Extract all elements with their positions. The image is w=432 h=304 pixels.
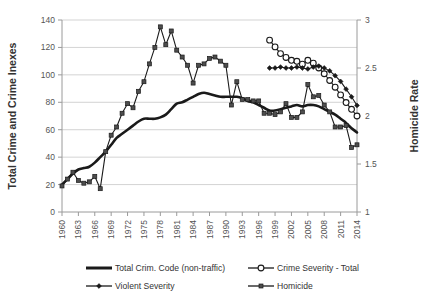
data-point-marker (104, 150, 108, 154)
data-point-marker (115, 125, 119, 129)
x-axis-tick-label: 1999 (270, 220, 280, 239)
data-point-marker (147, 62, 151, 66)
data-point-marker (169, 29, 173, 33)
data-point-marker (258, 265, 264, 271)
data-point-marker (284, 66, 289, 71)
data-point-marker (191, 81, 195, 85)
x-axis-tick-label: 1984 (188, 220, 198, 239)
data-point-marker (186, 63, 190, 67)
data-point-marker (82, 181, 86, 185)
y2-axis-tick-label: 2 (365, 111, 370, 121)
series-0 (62, 93, 357, 185)
legend-item-1[interactable]: Crime Severity - Total (248, 263, 359, 273)
x-axis-tick-label: 1963 (73, 220, 83, 239)
data-point-marker (60, 184, 64, 188)
data-point-marker (338, 92, 344, 98)
data-point-marker (289, 115, 293, 119)
chart-canvas: 02040608010012014011.522.531960196319661… (0, 0, 432, 304)
data-point-marker (142, 80, 146, 84)
x-axis-tick-label: 2014 (352, 220, 362, 239)
legend-item-3[interactable]: Homicide (248, 281, 313, 291)
x-axis-tick-label: 2008 (319, 220, 329, 239)
data-point-marker (197, 63, 201, 67)
data-point-marker (278, 65, 283, 70)
data-point-marker (240, 98, 244, 102)
data-point-marker (349, 106, 355, 112)
data-point-marker (339, 125, 343, 129)
data-point-marker (354, 113, 360, 119)
y-axis-tick-label: 20 (46, 180, 56, 190)
data-point-marker (317, 93, 321, 97)
data-point-marker (300, 110, 304, 114)
data-point-marker (262, 111, 266, 115)
data-point-marker (109, 133, 113, 137)
x-axis-tick-label: 1993 (237, 220, 247, 239)
data-point-marker (294, 58, 300, 64)
data-point-marker (180, 55, 184, 59)
data-point-marker (164, 43, 168, 47)
data-point-marker (328, 110, 332, 114)
data-point-marker (284, 102, 288, 106)
y-axis-tick-label: 100 (41, 70, 55, 80)
series-line (62, 93, 357, 185)
x-axis-tick-label: 1960 (57, 220, 67, 239)
y-axis-tick-label: 60 (46, 125, 56, 135)
x-axis-tick-label: 1969 (106, 220, 116, 239)
data-point-marker (267, 66, 272, 71)
data-point-marker (208, 56, 212, 60)
data-point-marker (333, 125, 337, 129)
data-point-marker (267, 37, 273, 43)
series-1 (267, 37, 360, 119)
data-point-marker (136, 89, 140, 93)
legend-item-2[interactable]: Violent Severity (86, 281, 175, 291)
data-point-marker (175, 48, 179, 52)
data-point-marker (246, 98, 250, 102)
data-point-marker (153, 45, 157, 49)
data-point-marker (278, 51, 284, 57)
data-point-marker (272, 44, 278, 50)
data-point-marker (311, 95, 315, 99)
data-point-marker (97, 284, 102, 289)
data-point-marker (202, 62, 206, 66)
y2-axis-tick-label: 1.5 (365, 159, 377, 169)
data-point-marker (279, 110, 283, 114)
data-point-marker (332, 84, 338, 90)
data-point-marker (158, 25, 162, 29)
data-point-marker (229, 103, 233, 107)
legend-item-0[interactable]: Total Crim. Code (non-traffic) (86, 263, 225, 273)
data-point-marker (273, 113, 277, 117)
data-point-marker (235, 80, 239, 84)
data-point-marker (350, 146, 354, 150)
data-point-marker (268, 111, 272, 115)
y2-axis-tick-label: 3 (365, 15, 370, 25)
data-point-marker (87, 180, 91, 184)
x-axis-tick-label: 1972 (123, 220, 133, 239)
data-point-marker (120, 111, 124, 115)
y2-axis-tick-label: 2.5 (365, 63, 377, 73)
x-axis-tick-label: 1966 (90, 220, 100, 239)
data-point-marker (273, 66, 278, 71)
legend-item-label: Violent Severity (115, 281, 175, 291)
crime-statistics-chart: 02040608010012014011.522.531960196319661… (0, 0, 432, 304)
x-axis-tick-label: 1981 (172, 220, 182, 239)
data-point-marker (327, 78, 333, 84)
data-point-marker (344, 124, 348, 128)
series-line (62, 27, 357, 189)
data-point-marker (131, 106, 135, 110)
x-axis-tick-label: 2005 (303, 220, 313, 239)
y-axis-tick-label: 120 (41, 42, 55, 52)
y-axis-tick-label: 140 (41, 15, 55, 25)
data-point-marker (251, 99, 255, 103)
data-point-marker (65, 177, 69, 181)
data-point-marker (224, 63, 228, 67)
data-point-marker (289, 57, 295, 63)
x-axis-tick-label: 2011 (336, 220, 346, 239)
legend-item-label: Total Crim. Code (non-traffic) (115, 263, 225, 273)
data-point-marker (218, 59, 222, 63)
data-point-marker (355, 143, 359, 147)
data-point-marker (289, 66, 294, 71)
data-point-marker (76, 178, 80, 182)
series-3 (60, 25, 359, 191)
data-point-marker (259, 284, 263, 288)
data-point-marker (305, 67, 310, 72)
